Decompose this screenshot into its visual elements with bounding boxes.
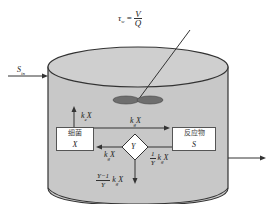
yield-growth-label: kgX: [104, 151, 115, 161]
bioreactor-diagram: [0, 0, 267, 204]
inflow-arrow: [42, 74, 48, 79]
bacteria-box: 细菌 X: [56, 127, 94, 151]
consumption-rate-label: 1Y kgX: [150, 150, 168, 167]
outflow-arrow: [260, 156, 266, 161]
yield-symbol: Y: [131, 143, 135, 151]
formula-denominator: Q: [135, 19, 142, 27]
byproduct-den: Y: [101, 181, 105, 189]
tank-top: [48, 47, 228, 87]
reactant-label: 反应物: [173, 128, 215, 139]
inflow-label: Sin: [17, 66, 25, 76]
consumption-den: Y: [151, 159, 155, 167]
growth-rate-label: kgX: [130, 117, 141, 127]
consumption-num: 1: [150, 150, 156, 159]
bacteria-label: 细菌: [57, 128, 93, 139]
byproduct-rate-label: Y−1Y kgX: [96, 172, 123, 189]
reactant-symbol: S: [173, 139, 215, 150]
byproduct-var: X: [118, 175, 123, 184]
reactant-box: 反应物 S: [172, 127, 216, 151]
growth-left-var: X: [110, 150, 115, 159]
death-var: X: [87, 111, 92, 120]
consumption-var: X: [164, 153, 169, 162]
byproduct-num: Y−1: [96, 172, 110, 181]
formula-eq: =: [125, 13, 135, 23]
inflow-sub: in: [21, 71, 25, 76]
growth-var: X: [136, 116, 141, 125]
impeller-blade-right: [137, 96, 163, 104]
impeller-blade-left: [113, 96, 139, 104]
residence-time-formula: τw = VQ: [118, 10, 142, 27]
bacteria-symbol: X: [57, 139, 93, 150]
death-rate-label: keX: [81, 112, 92, 122]
